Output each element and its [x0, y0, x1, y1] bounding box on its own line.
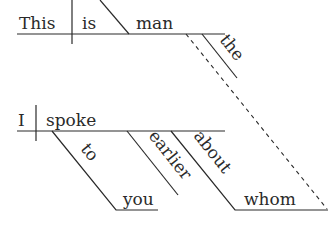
word-i: I [18, 110, 25, 130]
word-you: you [122, 189, 154, 209]
word-is: is [82, 13, 96, 33]
sentence-diagram: This is man the I spoke to you earlier a… [0, 0, 331, 238]
word-spoke: spoke [46, 110, 96, 130]
word-earlier: earlier [145, 126, 197, 184]
word-man: man [136, 13, 173, 33]
word-about: about [190, 126, 236, 177]
word-whom: whom [244, 189, 296, 209]
predicate-nominative-slant [100, 0, 129, 34]
word-to: to [77, 139, 103, 165]
word-this: This [19, 13, 55, 33]
relative-connector-dashed-line [186, 34, 327, 209]
word-the: the [216, 30, 249, 64]
